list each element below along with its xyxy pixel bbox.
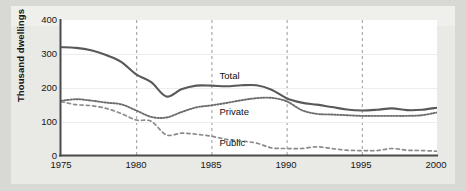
y-axis-title: Thousand dwellings (15, 0, 26, 121)
x-tick-1975: 1975 (41, 160, 81, 170)
series-label-public: Public (219, 137, 245, 148)
series-label-private: Private (219, 106, 249, 117)
x-tick-1985: 1985 (191, 160, 231, 170)
chart-figure: Thousand dwellings 400 300 200 100 0 197… (0, 0, 466, 191)
series-label-total: Total (219, 70, 239, 81)
x-tick-2000: 2000 (416, 160, 456, 170)
x-tick-1980: 1980 (116, 160, 156, 170)
y-tick-400: 400 (31, 15, 57, 24)
y-tick-100: 100 (31, 117, 57, 126)
x-tick-1990: 1990 (266, 160, 306, 170)
x-tick-labels: 1975 1980 1985 1990 1995 2000 (0, 160, 466, 178)
x-tick-1995: 1995 (341, 160, 381, 170)
y-tick-200: 200 (31, 83, 57, 92)
y-tick-300: 300 (31, 49, 57, 58)
